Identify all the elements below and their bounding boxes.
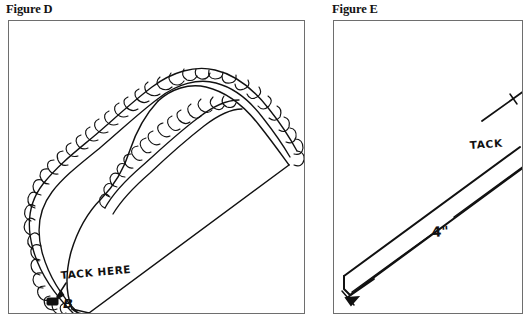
fabric-strip-outline [344, 147, 522, 295]
tack-here-arrow [57, 283, 66, 299]
figure-d-caption: Figure D [6, 3, 53, 16]
ruffle-scallops [24, 69, 304, 249]
tack-label: TACK [469, 137, 503, 151]
inner-ruffle-scallops [100, 96, 236, 208]
inner-ruffle-trim [105, 100, 242, 214]
figure-e-frame: 4" TACK [333, 20, 523, 314]
figure-e-drawing: 4" TACK [334, 21, 522, 313]
tack-here-label: TACK HERE [60, 263, 131, 281]
figure-d-frame: TACK HERE B [8, 20, 305, 314]
fabric-fold-crease [352, 166, 522, 292]
figure-e-caption: Figure E [332, 3, 378, 16]
tack-marker-b [47, 298, 58, 305]
figure-e-artwork: 4" TACK [334, 21, 522, 313]
point-label-b: B [63, 296, 73, 311]
swag-body-outline [67, 86, 289, 313]
strip-end-arrow [342, 279, 374, 305]
swag-bottom-tip [72, 309, 89, 313]
upper-strip-edge [482, 91, 522, 121]
outer-ruffle-trim [29, 68, 297, 313]
tack-pointer-tick [510, 94, 517, 104]
figure-d-drawing: TACK HERE B [9, 21, 304, 313]
figure-d-artwork: TACK HERE B [9, 21, 304, 313]
width-measure-label: 4" [431, 223, 449, 240]
bottom-ruffle-scallops [31, 245, 75, 313]
